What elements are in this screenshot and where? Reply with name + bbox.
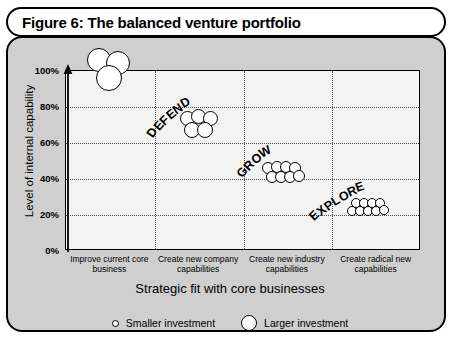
- legend-label-smaller: Smaller investment: [126, 317, 215, 329]
- figure-root: Figure 6: The balanced venture portfolio…: [0, 0, 460, 338]
- bubble: [379, 205, 389, 215]
- bubble-cluster-explore: [0, 0, 460, 338]
- legend: Smaller investment Larger investment: [0, 315, 460, 331]
- legend-item-smaller-investment: Smaller investment: [112, 317, 215, 329]
- legend-label-larger: Larger investment: [264, 317, 348, 329]
- legend-item-larger-investment: Larger investment: [241, 315, 348, 331]
- small-circle-icon: [112, 320, 119, 327]
- large-circle-icon: [241, 315, 257, 331]
